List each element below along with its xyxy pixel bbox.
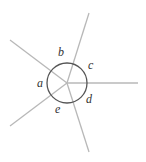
- angles-diagram: a b c d e: [0, 0, 146, 162]
- angle-label-a: a: [37, 76, 43, 90]
- angle-label-b: b: [58, 45, 64, 59]
- ray-up-right: [67, 13, 89, 83]
- angle-label-c: c: [88, 58, 94, 72]
- angle-label-e: e: [55, 102, 61, 116]
- angle-label-d: d: [86, 92, 93, 106]
